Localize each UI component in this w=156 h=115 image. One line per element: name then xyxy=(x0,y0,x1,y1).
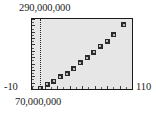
y-axis-tick xyxy=(32,89,35,90)
x-axis-tick xyxy=(113,87,114,89)
data-point xyxy=(98,44,103,49)
x-axis-tick xyxy=(120,86,121,89)
x-axis-tick xyxy=(70,86,71,89)
data-point xyxy=(38,86,43,90)
x-axis-tick xyxy=(88,87,89,89)
x-axis-tick xyxy=(132,86,133,89)
y-axis-tick xyxy=(32,29,34,30)
y-axis-tick xyxy=(32,70,35,71)
y-axis-max-label: 290,000,000 xyxy=(19,3,70,14)
y-axis-tick xyxy=(32,22,34,23)
data-point xyxy=(51,79,56,84)
scatter-plot-figure: 290,000,000 -10 110 70,000,000 xyxy=(0,0,156,115)
y-axis-tick xyxy=(32,86,34,87)
x-axis-tick xyxy=(51,87,52,89)
data-point xyxy=(45,82,50,87)
y-axis-tick xyxy=(32,38,35,39)
data-point xyxy=(85,55,90,60)
y-axis-tick xyxy=(32,57,35,58)
x-axis-tick xyxy=(57,86,58,89)
y-axis-tick xyxy=(32,51,35,52)
y-axis-tick xyxy=(32,67,34,68)
x-axis-tick xyxy=(95,86,96,89)
y-axis-min-label: 70,000,000 xyxy=(15,97,61,108)
data-point xyxy=(58,74,63,79)
x-axis-min-label: -10 xyxy=(4,82,18,93)
x-axis-tick xyxy=(82,86,83,89)
data-point xyxy=(91,50,96,55)
y-axis-tick xyxy=(32,79,34,80)
data-point xyxy=(65,71,70,76)
y-axis-tick xyxy=(32,83,35,84)
y-axis-tick xyxy=(32,25,35,26)
data-point xyxy=(121,22,126,27)
y-axis-tick xyxy=(32,35,34,36)
x-axis-tick xyxy=(126,87,127,89)
y-axis-tick xyxy=(32,64,35,65)
y-axis-tick xyxy=(32,48,34,49)
data-point xyxy=(111,32,116,37)
y-axis-tick xyxy=(32,32,35,33)
y-axis-tick xyxy=(32,44,35,45)
x-axis-max-label: 110 xyxy=(136,82,151,93)
plot-frame xyxy=(31,18,133,90)
x-axis-tick xyxy=(101,87,102,89)
zero-vertical-gridline xyxy=(40,19,41,89)
y-axis-tick xyxy=(32,73,34,74)
plot-canvas xyxy=(32,19,132,89)
x-axis-tick xyxy=(76,87,77,89)
data-point xyxy=(105,39,110,44)
data-point xyxy=(71,66,76,71)
y-axis-tick xyxy=(32,19,35,20)
y-axis-tick xyxy=(32,41,34,42)
y-axis-tick xyxy=(32,60,34,61)
y-axis-tick xyxy=(32,54,34,55)
y-axis-tick xyxy=(32,76,35,77)
x-axis-tick xyxy=(107,86,108,89)
x-axis-tick xyxy=(63,87,64,89)
data-point xyxy=(78,60,83,65)
